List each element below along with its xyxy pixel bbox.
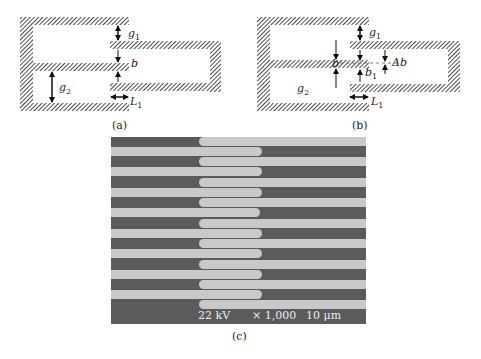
- caption-a: (a): [112, 119, 127, 132]
- label-g1: g1: [369, 26, 381, 41]
- sem-scale-label: 10 μm: [306, 309, 341, 322]
- left-comb-finger: [111, 188, 262, 197]
- sem-magnification: × 1,000: [252, 309, 296, 322]
- right-comb-finger: [199, 239, 366, 248]
- right-comb-finger: [199, 260, 366, 269]
- diagram-a-structure: [0, 0, 240, 130]
- label-L1: L1: [371, 95, 383, 110]
- left-comb-finger: [111, 249, 262, 258]
- left-comb-finger: [111, 270, 262, 279]
- left-comb-finger: [111, 229, 262, 238]
- left-comb-finger: [111, 290, 262, 299]
- label-g2: g2: [59, 81, 71, 96]
- right-comb-finger: [199, 157, 366, 166]
- label-b: b: [332, 57, 339, 70]
- panel-a: g1 b g2 L1 (a): [0, 0, 240, 130]
- right-comb-finger: [199, 178, 366, 187]
- right-comb-finger: [199, 300, 366, 309]
- label-g2: g2: [297, 82, 309, 97]
- caption-c: (c): [232, 330, 247, 343]
- caption-b: (b): [352, 119, 368, 132]
- panel-b: g1 b b1 Δb g2 L1 (b): [240, 0, 481, 130]
- label-b1: b1: [365, 66, 377, 81]
- diagram-b-structure: [240, 0, 481, 130]
- right-comb-finger: [199, 280, 366, 289]
- right-comb-finger: [199, 137, 366, 146]
- label-b: b: [131, 57, 138, 70]
- right-comb-finger: [199, 219, 366, 228]
- sem-voltage: 22 kV: [198, 309, 230, 322]
- left-comb-finger: [111, 208, 260, 217]
- left-comb-finger: [111, 167, 262, 176]
- label-g1: g1: [128, 27, 140, 42]
- label-delta-b: Δb: [392, 56, 407, 69]
- label-L1: L1: [130, 95, 142, 110]
- right-comb-finger: [199, 198, 366, 207]
- left-comb-finger: [111, 147, 262, 156]
- sem-micrograph: 22 kV × 1,000 10 μm: [111, 137, 366, 324]
